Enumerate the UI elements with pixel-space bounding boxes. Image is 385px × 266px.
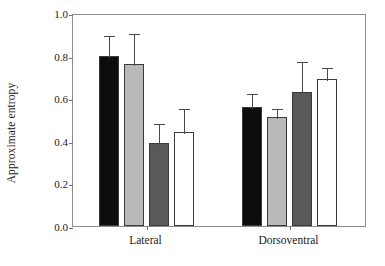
y-axis-tick-mark xyxy=(69,228,73,229)
error-bar-stem xyxy=(159,124,160,145)
bar xyxy=(267,117,287,226)
error-bar-stem xyxy=(327,68,328,81)
x-axis-group-label: Dorsoventral xyxy=(258,234,318,246)
x-axis-group-label: Lateral xyxy=(129,234,162,246)
error-bar-stem xyxy=(277,109,278,120)
bar xyxy=(124,64,144,226)
y-axis-title: Approximate entropy xyxy=(0,0,22,266)
error-bar-cap xyxy=(154,124,165,125)
x-axis-tick-mark xyxy=(290,226,291,230)
error-bar-stem xyxy=(252,94,253,109)
x-axis-tick-mark xyxy=(147,226,148,230)
bar-chart-figure: Approximate entropy 0.00.20.40.60.81.0 L… xyxy=(0,0,385,266)
error-bar-stem xyxy=(134,34,135,66)
plot-area xyxy=(72,14,366,227)
y-axis-tick-label-column: 0.00.20.40.60.81.0 xyxy=(24,0,68,266)
error-bar-stem xyxy=(302,62,303,94)
bar xyxy=(242,107,262,226)
error-bar-cap xyxy=(104,36,115,37)
bar xyxy=(174,132,194,226)
y-axis-tick-mark xyxy=(69,100,73,101)
bar xyxy=(149,143,169,226)
y-axis-tick-label: 0.0 xyxy=(34,221,68,233)
y-axis-tick-label: 0.4 xyxy=(34,136,68,148)
y-axis-tick-mark xyxy=(69,15,73,16)
error-bar-cap xyxy=(322,68,333,69)
y-axis-tick-label: 0.2 xyxy=(34,178,68,190)
y-axis-tick-label: 0.8 xyxy=(34,51,68,63)
bar xyxy=(99,56,119,226)
bar xyxy=(292,92,312,226)
error-bar-stem xyxy=(109,36,110,57)
error-bar-cap xyxy=(272,109,283,110)
y-axis-tick-mark xyxy=(69,185,73,186)
error-bar-cap xyxy=(297,62,308,63)
y-axis-tick-mark xyxy=(69,58,73,59)
y-axis-tick-label: 0.6 xyxy=(34,93,68,105)
bar xyxy=(317,79,337,226)
error-bar-stem xyxy=(184,109,185,135)
error-bar-cap xyxy=(247,94,258,95)
error-bar-cap xyxy=(129,34,140,35)
y-axis-tick-mark xyxy=(69,143,73,144)
y-axis-tick-label: 1.0 xyxy=(34,8,68,20)
error-bar-cap xyxy=(179,109,190,110)
